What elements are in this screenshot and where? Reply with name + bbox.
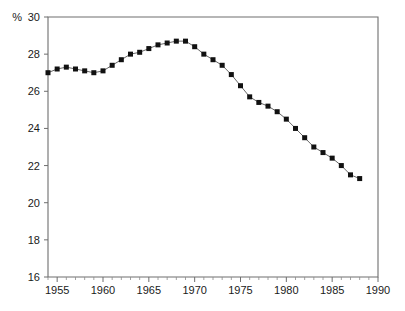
chart-container: 1618202224262830%19551960196519701975198… (0, 0, 405, 311)
x-tick-label: 1970 (182, 284, 206, 296)
x-tick-label: 1975 (228, 284, 252, 296)
data-point-marker: 1959: 27% (91, 70, 96, 75)
data-point-marker: 1971: 28% (201, 52, 206, 57)
data-point-marker: 1976: 25.7% (247, 94, 252, 99)
y-tick-label: 24 (28, 122, 40, 134)
data-point-marker: 1969: 28.7% (183, 39, 188, 44)
data-point-marker: 1987: 21.5% (348, 172, 353, 177)
y-tick-label: 18 (28, 234, 40, 246)
x-tick-label: 1960 (91, 284, 115, 296)
data-point-marker: 1960: 27.1% (101, 68, 106, 73)
x-tick-label: 1980 (274, 284, 298, 296)
data-point-marker: 1963: 28% (128, 52, 133, 57)
series-line (48, 41, 360, 178)
y-tick-label: 28 (28, 48, 40, 60)
data-point-marker: 1988: 21.3% (357, 176, 362, 181)
line-chart: 1618202224262830%19551960196519701975198… (0, 0, 405, 311)
data-point-marker: 1979: 24.9% (275, 109, 280, 114)
data-point-marker: 1967: 28.6% (165, 41, 170, 46)
data-point-marker: 1983: 23% (311, 145, 316, 150)
x-tick-label: 1990 (366, 284, 390, 296)
data-point-marker: 1981: 24% (293, 126, 298, 131)
data-point-marker: 1965: 28.3% (146, 46, 151, 51)
x-tick-label: 1965 (137, 284, 161, 296)
data-point-marker: 1974: 26.9% (229, 72, 234, 77)
data-point-marker: 1958: 27.1% (82, 68, 87, 73)
data-point-marker: 1957: 27.2% (73, 67, 78, 72)
y-tick-label: 30 (28, 11, 40, 23)
data-point-marker: 1985: 22.4% (330, 156, 335, 161)
data-point-marker: 1962: 27.7% (119, 57, 124, 62)
data-point-marker: 1955: 27.2% (55, 67, 60, 72)
data-point-marker: 1982: 23.5% (302, 135, 307, 140)
data-point-marker: 1956: 27.3% (64, 65, 69, 70)
data-point-marker: 1954: 27% (46, 70, 51, 75)
y-tick-label: 22 (28, 160, 40, 172)
data-point-marker: 1964: 28.1% (137, 50, 142, 55)
data-point-marker: 1972: 27.7% (211, 57, 216, 62)
unit-label: % (12, 11, 22, 23)
data-point-marker: 1984: 22.7% (321, 150, 326, 155)
data-point-marker: 1977: 25.4% (256, 100, 261, 105)
series-markers: 1954: 27%1955: 27.2%1956: 27.3%1957: 27.… (46, 39, 363, 181)
data-point-marker: 1986: 22% (339, 163, 344, 168)
x-tick-label: 1955 (45, 284, 69, 296)
data-point-marker: 1968: 28.7% (174, 39, 179, 44)
data-point-marker: 1980: 24.5% (284, 117, 289, 122)
y-tick-label: 20 (28, 197, 40, 209)
x-tick-label: 1985 (320, 284, 344, 296)
plot-frame (48, 17, 378, 277)
data-point-marker: 1978: 25.2% (266, 104, 271, 109)
y-tick-label: 16 (28, 271, 40, 283)
data-point-marker: 1966: 28.5% (156, 42, 161, 47)
data-point-marker: 1961: 27.4% (110, 63, 115, 68)
data-point-marker: 1975: 26.3% (238, 83, 243, 88)
data-point-marker: 1970: 28.4% (192, 44, 197, 49)
y-tick-label: 26 (28, 85, 40, 97)
data-point-marker: 1973: 27.4% (220, 63, 225, 68)
